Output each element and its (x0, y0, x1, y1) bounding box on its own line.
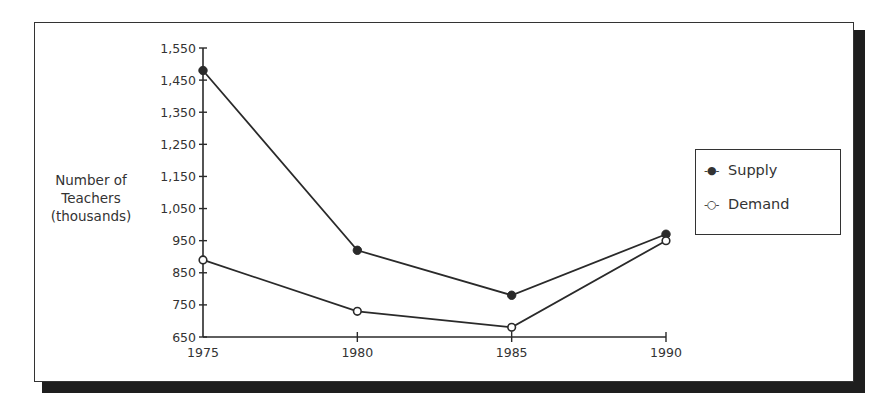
y-tick-label: 850 (172, 265, 196, 280)
x-tick-label: 1985 (496, 345, 528, 360)
x-tick-label: 1990 (650, 345, 682, 360)
y-axis-label-line: Teachers (36, 189, 146, 207)
y-tick-label: 1,350 (160, 105, 196, 120)
legend-label: Demand (728, 196, 790, 212)
open-circle-icon (662, 237, 670, 245)
x-tick-label: 1980 (341, 345, 373, 360)
legend: -●- Supply -○- Demand (695, 149, 841, 235)
filled-circle-icon (199, 66, 207, 74)
y-tick-label: 1,150 (160, 169, 196, 184)
filled-circle-icon: -●- (704, 164, 728, 177)
legend-item-demand: -○- Demand (704, 196, 790, 212)
filled-circle-icon (353, 246, 361, 254)
y-axis-label-line: Number of (36, 171, 146, 189)
x-tick-label: 1975 (187, 345, 219, 360)
y-axis-label-line: (thousands) (36, 207, 146, 225)
open-circle-icon (508, 324, 516, 332)
y-tick-label: 1,450 (160, 73, 196, 88)
open-circle-icon (354, 308, 362, 316)
series-line-demand (203, 241, 666, 328)
y-tick-label: 1,050 (160, 201, 196, 216)
y-tick-label: 1,250 (160, 137, 196, 152)
open-circle-icon (199, 256, 207, 264)
y-tick-label: 950 (172, 233, 196, 248)
y-tick-label: 650 (172, 330, 196, 345)
legend-item-supply: -●- Supply (704, 162, 777, 178)
filled-circle-icon (507, 291, 515, 299)
y-tick-label: 1,550 (160, 41, 196, 56)
series-group (199, 66, 670, 331)
open-circle-icon: -○- (704, 198, 728, 211)
y-tick-label: 750 (172, 297, 196, 312)
y-axis-label: Number of Teachers (thousands) (36, 171, 146, 225)
axes: 1,5501,4501,3501,2501,1501,0509508507506… (160, 41, 682, 361)
series-line-supply (203, 70, 666, 295)
legend-label: Supply (728, 162, 777, 178)
